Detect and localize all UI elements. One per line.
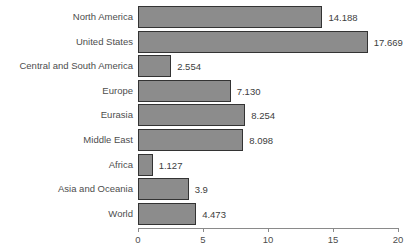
- bar-value-label: 14.188: [328, 12, 357, 23]
- bar-value-label: 7.130: [237, 85, 261, 96]
- bar-value-label: 8.098: [249, 135, 273, 146]
- bar: [138, 104, 245, 126]
- category-label: Africa: [109, 159, 133, 170]
- x-axis-tick-label: 20: [393, 234, 404, 245]
- bar: [138, 6, 322, 28]
- bar-row: 4.473: [138, 203, 398, 225]
- x-axis-tick: [398, 228, 399, 232]
- bar-value-label: 3.9: [195, 184, 208, 195]
- category-label: Europe: [102, 85, 133, 96]
- bar-row: 8.098: [138, 129, 398, 151]
- bar-row: 3.9: [138, 178, 398, 200]
- bar-row: 7.130: [138, 80, 398, 102]
- x-axis-tick: [333, 228, 334, 232]
- bar-row: 1.127: [138, 154, 398, 176]
- bar-chart: North AmericaUnited StatesCentral and So…: [0, 0, 413, 248]
- plot-area: North AmericaUnited StatesCentral and So…: [0, 0, 413, 248]
- x-axis-tick: [268, 228, 269, 232]
- bar-row: 14.188: [138, 6, 398, 28]
- bar-value-label: 2.554: [177, 61, 201, 72]
- category-label: Central and South America: [19, 60, 133, 71]
- x-axis-tick-label: 5: [200, 234, 205, 245]
- bar-value-label: 1.127: [159, 159, 183, 170]
- x-axis-tick: [138, 228, 139, 232]
- bar: [138, 203, 196, 225]
- bar-value-label: 8.254: [251, 110, 275, 121]
- category-label: United States: [76, 36, 133, 47]
- bar-value-label: 4.473: [202, 208, 226, 219]
- bar-value-label: 17.669: [374, 36, 403, 47]
- bar: [138, 154, 153, 176]
- bar: [138, 31, 368, 53]
- x-axis-tick: [203, 228, 204, 232]
- bar-row: 8.254: [138, 104, 398, 126]
- x-axis-tick-label: 15: [328, 234, 339, 245]
- category-label: Eurasia: [101, 109, 133, 120]
- bar: [138, 80, 231, 102]
- category-label: North America: [73, 11, 133, 22]
- x-axis-tick-label: 0: [135, 234, 140, 245]
- bar-row: 17.669: [138, 31, 398, 53]
- category-label: Middle East: [83, 134, 133, 145]
- bar-row: 2.554: [138, 55, 398, 77]
- x-axis-tick-label: 10: [263, 234, 274, 245]
- bar: [138, 129, 243, 151]
- category-label: Asia and Oceania: [58, 183, 133, 194]
- bar: [138, 55, 171, 77]
- bar: [138, 178, 189, 200]
- category-label: World: [108, 208, 133, 219]
